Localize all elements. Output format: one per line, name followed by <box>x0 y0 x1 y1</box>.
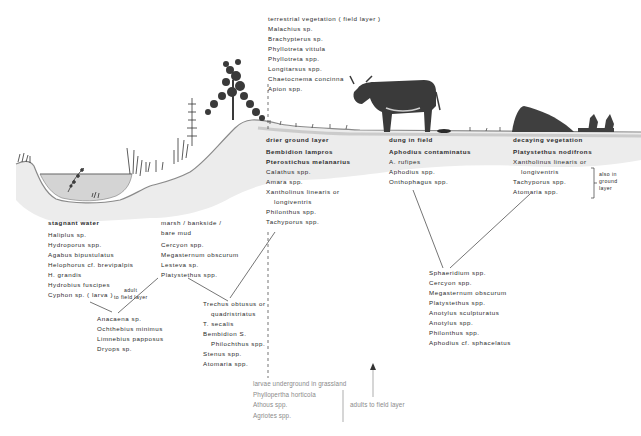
drier-ground-block: drier ground layer Bembidion lampros Pte… <box>266 135 351 227</box>
decaying-heap <box>512 106 614 132</box>
underground-block: larvae underground in grassland Phyllope… <box>253 379 346 421</box>
beetle-habitat-diagram: terrestrial vegetation ( field layer ) M… <box>0 0 641 436</box>
also-in-ground-note: also in ground layer <box>599 171 618 192</box>
hill-vegetation <box>205 59 265 121</box>
heading-line-2: bare mud <box>161 228 239 238</box>
heading: larvae underground in grassland <box>253 379 346 390</box>
cyphon-note: adult to field layer <box>124 287 148 301</box>
dung-decaying-shared-block: Sphaeridium spp. Cercyon spp. Megasternu… <box>429 268 511 348</box>
marsh-block: marsh / bankside / bare mud Cercyon spp.… <box>161 218 239 280</box>
heading-line-1: marsh / bankside / <box>161 218 239 228</box>
pond-water <box>40 174 132 201</box>
heading: terrestrial vegetation ( field layer ) <box>268 14 381 24</box>
dung-block: dung in field Aphodius contaminatus A. r… <box>389 135 471 187</box>
water-marsh-shared-block: Anacaena sp. Ochthebius minimus Limnebiu… <box>97 314 164 354</box>
adults-to-field-note: adults to field layer <box>350 400 405 410</box>
decaying-block: decaying vegetation Platystethus nodifro… <box>513 135 592 197</box>
terrestrial-block: terrestrial vegetation ( field layer ) M… <box>268 14 381 94</box>
up-arrow-icon <box>370 363 376 370</box>
stagnant-water-block: stagnant water Haliplus sp. Hydroporus s… <box>48 218 134 300</box>
heading: dung in field <box>389 135 471 145</box>
heading: decaying vegetation <box>513 135 592 145</box>
marsh-plants <box>127 98 197 176</box>
marsh-drier-shared-block: Trechus obtusus or quadristriatus T. sec… <box>203 299 266 369</box>
heading: stagnant water <box>48 218 134 228</box>
heading: drier ground layer <box>266 135 351 145</box>
